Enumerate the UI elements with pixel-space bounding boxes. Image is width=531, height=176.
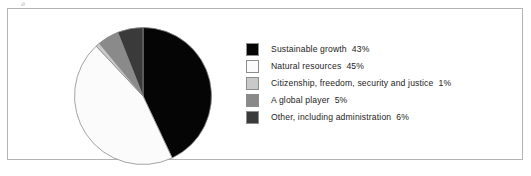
chart-legend: Sustainable growth 43% Natural resources… (238, 41, 513, 126)
legend-swatch-icon (246, 60, 259, 73)
legend-item-value: 6% (396, 112, 409, 123)
legend-item-label: A global player (271, 95, 330, 106)
legend-item-other-including-administration[interactable]: Other, including administration 6% (238, 109, 513, 126)
legend-item-sustainable-growth[interactable]: Sustainable growth 43% (238, 41, 513, 58)
legend-item-value: 43% (352, 44, 370, 55)
legend-item-label: Citizenship, freedom, security and justi… (271, 78, 434, 89)
legend-item-natural-resources[interactable]: Natural resources 45% (238, 58, 513, 75)
legend-item-label: Sustainable growth (271, 44, 347, 55)
legend-item-label: Natural resources (271, 61, 341, 72)
pie-chart (67, 20, 219, 172)
legend-item-value: 1% (439, 78, 452, 89)
legend-item-value: 45% (346, 61, 364, 72)
legend-swatch-icon (246, 94, 259, 107)
chart-frame: Sustainable growth 43% Natural resources… (7, 8, 523, 160)
legend-item-citizenship-freedom-security-justice[interactable]: Citizenship, freedom, security and justi… (238, 75, 513, 92)
legend-swatch-icon (246, 111, 259, 124)
pie-chart-svg (67, 20, 219, 172)
page-artifact-glyph: ⌀ (21, 0, 33, 7)
legend-swatch-icon (246, 77, 259, 90)
legend-item-label: Other, including administration (271, 112, 391, 123)
pie-slice-group (75, 28, 212, 165)
legend-swatch-icon (246, 43, 259, 56)
legend-item-a-global-player[interactable]: A global player 5% (238, 92, 513, 109)
legend-item-value: 5% (335, 95, 348, 106)
figure-container: ⌀ Sustainable growth 43% Natural resourc… (0, 0, 531, 176)
